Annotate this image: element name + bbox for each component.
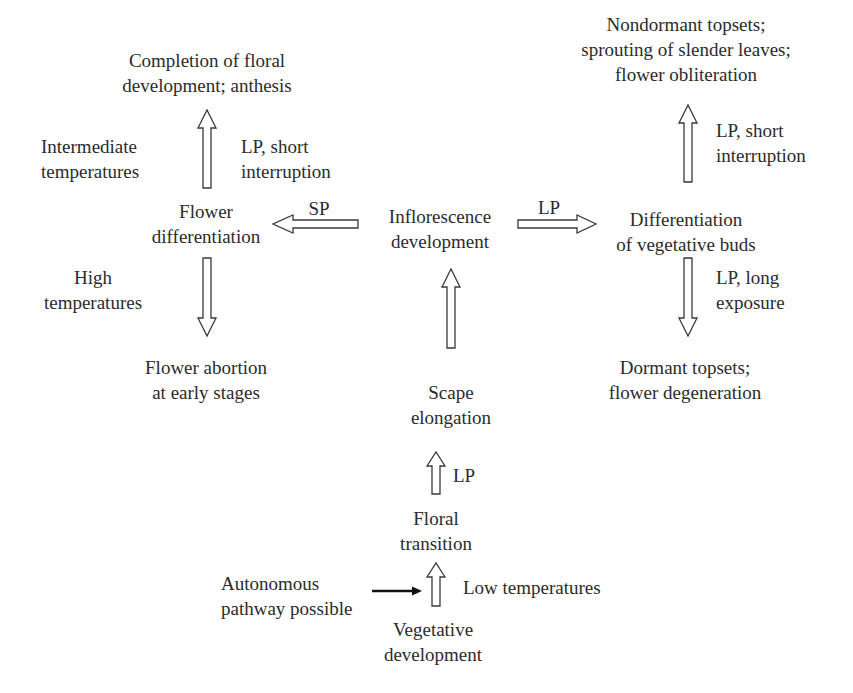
arrows-layer — [0, 0, 853, 693]
condition-lp-short-right-line1: LP, short — [716, 118, 806, 143]
node-autonomous-pathway: Autonomous pathway possible — [221, 571, 352, 621]
condition-lp-long-line1: LP, long — [716, 265, 785, 290]
node-vegetative-line2: development — [384, 642, 482, 667]
node-vegetative-line1: Vegetative — [384, 617, 482, 642]
node-vegetative-buds: Differentiation of vegetative buds — [616, 207, 755, 257]
node-nondormant-line3: flower obliteration — [581, 62, 790, 87]
node-scape-line1: Scape — [411, 380, 491, 405]
condition-lp-long-line2: exposure — [716, 290, 785, 315]
condition-high-temperatures: High temperatures — [44, 265, 142, 315]
condition-lp-short-right: LP, short interruption — [716, 118, 806, 168]
arrow-up-inflorescence-icon — [442, 269, 460, 348]
node-completion: Completion of floral development; anthes… — [122, 48, 291, 98]
condition-high-line2: temperatures — [44, 290, 142, 315]
node-veg-buds-line2: of vegetative buds — [616, 232, 755, 257]
node-dormant-line2: flower degeneration — [609, 380, 761, 405]
condition-intermediate-line2: temperatures — [41, 159, 139, 184]
condition-lp-right: LP — [538, 195, 560, 220]
condition-lp-short-left: LP, short interruption — [241, 134, 331, 184]
node-inflorescence-line1: Inflorescence — [389, 204, 491, 229]
condition-sp-text: SP — [308, 196, 329, 221]
arrow-down-abortion-icon — [198, 258, 216, 336]
node-flower-abortion: Flower abortion at early stages — [145, 355, 267, 405]
node-vegetative-development: Vegetative development — [384, 617, 482, 667]
arrow-up-scape-icon — [427, 452, 445, 494]
node-abortion-line1: Flower abortion — [145, 355, 267, 380]
node-completion-line1: Completion of floral — [122, 48, 291, 73]
condition-lp-scape-text: LP — [453, 463, 475, 488]
node-dormant-topsets: Dormant topsets; flower degeneration — [609, 355, 761, 405]
condition-lp-right-text: LP — [538, 195, 560, 220]
node-inflorescence-development: Inflorescence development — [389, 204, 491, 254]
condition-intermediate-temperatures: Intermediate temperatures — [41, 134, 139, 184]
condition-low-temps-text: Low temperatures — [463, 575, 601, 600]
node-nondormant-topsets: Nondormant topsets; sprouting of slender… — [581, 12, 790, 87]
node-flower-diff-line2: differentiation — [152, 224, 260, 249]
node-flower-diff-line1: Flower — [152, 199, 260, 224]
node-nondormant-line2: sprouting of slender leaves; — [581, 37, 790, 62]
node-scape-elongation: Scape elongation — [411, 380, 491, 430]
node-completion-line2: development; anthesis — [122, 73, 291, 98]
node-veg-buds-line1: Differentiation — [616, 207, 755, 232]
node-autonomous-line1: Autonomous — [221, 571, 352, 596]
node-floral-transition-line1: Floral — [400, 506, 472, 531]
node-floral-transition: Floral transition — [400, 506, 472, 556]
condition-lp-scape: LP — [453, 463, 475, 488]
node-floral-transition-line2: transition — [400, 531, 472, 556]
condition-lp-long-exposure: LP, long exposure — [716, 265, 785, 315]
node-flower-differentiation: Flower differentiation — [152, 199, 260, 249]
node-abortion-line2: at early stages — [145, 380, 267, 405]
arrow-up-floral-transition-icon — [427, 563, 445, 606]
arrow-autonomous-icon — [372, 587, 422, 596]
condition-lp-short-left-line1: LP, short — [241, 134, 331, 159]
arrow-up-completion-icon — [198, 110, 216, 188]
node-inflorescence-line2: development — [389, 229, 491, 254]
condition-sp: SP — [308, 196, 329, 221]
node-nondormant-line1: Nondormant topsets; — [581, 12, 790, 37]
node-scape-line2: elongation — [411, 405, 491, 430]
arrow-up-nondormant-icon — [679, 105, 697, 182]
condition-intermediate-line1: Intermediate — [41, 134, 139, 159]
condition-lp-short-right-line2: interruption — [716, 143, 806, 168]
condition-high-line1: High — [44, 265, 142, 290]
condition-lp-short-left-line2: interruption — [241, 159, 331, 184]
node-autonomous-line2: pathway possible — [221, 596, 352, 621]
arrow-down-dormant-icon — [679, 258, 697, 336]
condition-low-temperatures: Low temperatures — [463, 575, 601, 600]
node-dormant-line1: Dormant topsets; — [609, 355, 761, 380]
